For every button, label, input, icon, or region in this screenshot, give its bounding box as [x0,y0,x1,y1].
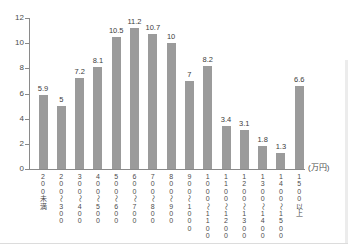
y-tick-mark [25,43,29,44]
unit-label: (万円) [308,163,329,173]
y-tick-mark [25,18,29,19]
y-axis-line [29,18,30,170]
bar-value-label: 7.2 [65,67,95,76]
x-tick-label: 1500以上 [293,173,305,217]
y-tick-label: 8 [0,63,24,73]
x-axis-line [29,169,305,170]
bar [167,43,176,169]
y-tick-label: 0 [0,164,24,174]
x-tick-label: 1200〜1300 [238,173,250,240]
bar-value-label: 10.5 [101,26,131,35]
y-tick-label: 4 [0,114,24,124]
bar-value-label: 8.2 [193,55,223,64]
x-tick-label: 1000〜1100 [202,173,214,240]
x-tick-label: 200未満 [37,173,49,210]
y-tick-label: 2 [0,139,24,149]
y-tick-mark [25,119,29,120]
bar [295,86,304,169]
x-tick-label: 1300〜1400 [257,173,269,240]
bar [39,95,48,169]
bar [148,34,157,169]
bar [112,37,121,169]
x-tick-label: 900〜1000 [183,173,195,232]
x-tick-label: 700〜800 [147,173,159,225]
x-tick-label: 1100〜1200 [220,173,232,240]
bar-value-label: 5 [46,95,76,104]
bar-value-label: 5.9 [28,84,58,93]
y-tick-label: 10 [0,38,24,48]
x-tick-label: 1400〜1500 [275,173,287,240]
bar [75,78,84,169]
bar-value-label: 6.6 [284,75,314,84]
bar [57,106,66,169]
bar [130,28,139,169]
x-tick-label: 300〜400 [74,173,86,225]
x-tick-label: 500〜600 [110,173,122,225]
x-tick-label: 200〜300 [55,173,67,225]
y-tick-mark [25,144,29,145]
x-tick-label: 800〜900 [165,173,177,225]
y-tick-label: 6 [0,89,24,99]
bar-value-label: 7 [174,70,204,79]
bar-value-label: 10 [156,32,186,41]
bar-value-label: 1.3 [266,142,296,151]
x-tick-label: 600〜700 [129,173,141,225]
bottom-divider [0,243,348,244]
bar-value-label: 10.7 [138,23,168,32]
y-tick-mark [25,169,29,170]
y-tick-mark [25,68,29,69]
bar [276,153,285,169]
bar-value-label: 3.1 [229,119,259,128]
bar [93,67,102,169]
bar [222,126,231,169]
bar [185,81,194,169]
y-tick-label: 12 [0,13,24,23]
x-tick-label: 400〜500 [92,173,104,225]
bar-value-label: 8.1 [83,56,113,65]
bar-chart: 024681012 5.957.28.110.511.210.71078.23.… [0,0,348,250]
y-tick-mark [25,94,29,95]
